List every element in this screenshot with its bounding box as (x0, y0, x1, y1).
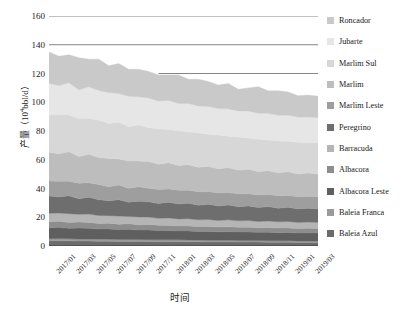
legend-swatch-icon (327, 81, 334, 88)
legend-item[interactable]: Roncador (327, 10, 402, 31)
stacked-area-chart (49, 16, 318, 246)
legend-item-label: Barracuda (339, 144, 373, 153)
y-axis-tick-label: 120 (5, 70, 45, 78)
y-axis-tick-label: 60 (5, 156, 45, 164)
legend-item-label: Marlim Leste (339, 101, 383, 110)
y-axis-tick-label: 40 (5, 185, 45, 193)
legend-swatch-icon (327, 230, 334, 237)
x-axis-tick-label: 2018/07 (233, 252, 257, 276)
x-axis-tick-label: 2018/01 (174, 252, 198, 276)
x-axis-tick-label: 2017/01 (54, 252, 78, 276)
legend-swatch-icon (327, 38, 334, 45)
y-axis-tick-label: 140 (5, 41, 45, 49)
y-axis-tick-label: 160 (5, 12, 45, 20)
y-axis-tick-label: 20 (5, 213, 45, 221)
legend-item-label: Baleia Franca (339, 208, 384, 217)
legend-swatch-icon (327, 188, 334, 195)
x-axis-tick-label: 2017/11 (154, 252, 177, 275)
legend-item[interactable]: Baleia Azul (327, 223, 402, 244)
x-axis-tick-label: 2018/03 (194, 252, 218, 276)
legend-swatch-icon (327, 166, 334, 173)
legend-swatch-icon (327, 102, 334, 109)
y-axis-tick-label: 80 (5, 127, 45, 135)
chart-legend: RoncadorJubarteMarlim SulMarlimMarlim Le… (327, 10, 402, 244)
legend-item-label: Marlim (339, 80, 364, 89)
x-axis-tick-label: 2017/03 (74, 252, 98, 276)
legend-item[interactable]: Marlim Sul (327, 53, 402, 74)
legend-item-label: Peregrino (339, 123, 371, 132)
legend-swatch-icon (327, 209, 334, 216)
y-axis-unit-exponent: 4 (18, 109, 25, 112)
y-axis-tick-label: 0 (5, 242, 45, 250)
legend-item-label: Baleia Azul (339, 229, 377, 238)
chart-root: 产量（104bbl/d） 020406080100120140160 2017/… (0, 0, 402, 315)
legend-item[interactable]: Marlim Leste (327, 95, 402, 116)
legend-item[interactable]: Marlim (327, 74, 402, 95)
x-axis-tick-label: 2019/03 (313, 252, 337, 276)
legend-item-label: Jubarte (339, 37, 363, 46)
legend-item[interactable]: Albacora (327, 159, 402, 180)
legend-item[interactable]: Barracuda (327, 138, 402, 159)
legend-swatch-icon (327, 17, 334, 24)
x-axis-tick-label: 2017/09 (134, 252, 158, 276)
legend-item-label: Marlim Sul (339, 59, 377, 68)
x-axis-tick-label: 2019/01 (293, 252, 317, 276)
x-axis-tick-label: 2018/09 (253, 252, 277, 276)
legend-swatch-icon (327, 60, 334, 67)
legend-item[interactable]: Peregrino (327, 116, 402, 137)
legend-item[interactable]: Jubarte (327, 31, 402, 52)
plot-area (49, 16, 318, 246)
legend-swatch-icon (327, 145, 334, 152)
legend-item[interactable]: Albacora Leste (327, 180, 402, 201)
y-axis-tick-label: 100 (5, 98, 45, 106)
legend-item-label: Albacora Leste (339, 187, 389, 196)
legend-swatch-icon (327, 124, 334, 131)
x-axis-title: 时间 (0, 290, 360, 304)
legend-item-label: Albacora (339, 165, 369, 174)
x-axis-tick-label: 2017/07 (114, 252, 138, 276)
x-axis-tick-label: 2017/05 (94, 252, 118, 276)
x-axis-tick-label: 2018/05 (214, 252, 238, 276)
legend-item[interactable]: Baleia Franca (327, 202, 402, 223)
x-axis-tick-label: 2018/11 (273, 252, 296, 275)
legend-item-label: Roncador (339, 16, 371, 25)
